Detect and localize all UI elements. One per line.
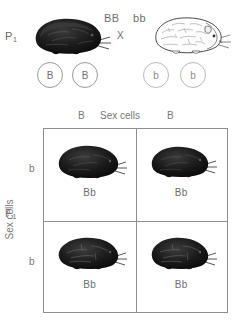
offspring-generation-label: F1	[5, 207, 16, 219]
white-guinea-pig-icon	[148, 11, 234, 59]
cross-symbol: X	[117, 30, 124, 41]
gamete-circle-parent-left-1: B	[37, 62, 63, 88]
genetics-punnett-diagram: P1	[0, 0, 236, 333]
parent-right-genotype: bb	[133, 12, 146, 24]
gamete-label: B	[47, 70, 54, 81]
punnett-row-header-2: b	[29, 256, 35, 267]
gamete-label: B	[82, 70, 89, 81]
punnett-square-grid: Bb	[43, 128, 228, 313]
parent-white-guinea-pig	[148, 11, 234, 59]
punnett-cell-row2-col2: Bb	[136, 221, 228, 313]
parent-generation-subscript: 1	[13, 36, 17, 43]
punnett-cell-genotype: Bb	[83, 279, 96, 290]
punnett-column-header-2: B	[167, 110, 174, 121]
parent-black-guinea-pig	[26, 11, 114, 59]
parent-generation-label: P1	[5, 30, 17, 42]
punnett-top-axis-title: Sex cells	[100, 110, 140, 121]
black-guinea-pig-icon	[26, 11, 114, 59]
gamete-label: b	[190, 70, 196, 81]
punnett-row-header-1: b	[29, 163, 35, 174]
punnett-cell-row2-col1: Bb	[44, 221, 136, 313]
punnett-cell-row1-col1: Bb	[44, 129, 136, 221]
punnett-column-header-1: B	[78, 110, 85, 121]
offspring-generation-subscript: 1	[12, 213, 16, 220]
parent-left-genotype: BB	[104, 12, 119, 24]
black-guinea-pig-icon	[144, 139, 218, 183]
gamete-circle-parent-right-2: b	[180, 62, 206, 88]
gamete-circle-parent-right-1: b	[143, 62, 169, 88]
punnett-cell-genotype: Bb	[175, 187, 188, 198]
offspring-generation-letter: F	[5, 207, 12, 219]
black-guinea-pig-icon	[51, 139, 129, 183]
black-guinea-pig-icon	[51, 231, 129, 275]
parent-generation-letter: P	[5, 30, 13, 42]
gamete-circle-parent-left-2: B	[72, 62, 98, 88]
punnett-cell-genotype: Bb	[175, 279, 188, 290]
punnett-cell-genotype: Bb	[83, 187, 96, 198]
gamete-label: b	[153, 70, 159, 81]
black-guinea-pig-icon	[144, 231, 218, 275]
punnett-cell-row1-col2: Bb	[136, 129, 228, 221]
